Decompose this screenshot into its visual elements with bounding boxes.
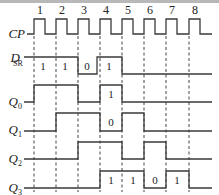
pulse-number-6: 6: [147, 3, 153, 17]
signal-label-q3-subscript: 3: [18, 188, 22, 195]
q3-value-5: 1: [130, 174, 136, 186]
pulse-number-2: 2: [59, 3, 65, 17]
q3-value-6: 0: [152, 174, 158, 186]
pulse-numbers: 1 2 3 4 5 6 7 8: [37, 3, 198, 17]
signal-dsr: D SR 1 1 0 1: [10, 50, 212, 74]
signal-label-q2-subscript: 2: [18, 159, 22, 168]
cp-waveform: [27, 19, 212, 34]
pulse-number-5: 5: [125, 3, 131, 17]
signal-label-q1-subscript: 1: [18, 130, 22, 139]
q1-waveform: [24, 113, 212, 131]
pulse-number-4: 4: [103, 3, 109, 17]
q3-waveform: [24, 171, 212, 188]
q2-waveform: [24, 142, 212, 159]
signal-label-dsr-subscript: SR: [13, 59, 23, 68]
pulse-number-1: 1: [37, 3, 43, 17]
dsr-value-4: 1: [106, 60, 112, 72]
q1-value-4: 0: [108, 116, 114, 128]
dsr-value-1: 1: [40, 60, 46, 72]
pulse-number-8: 8: [192, 3, 198, 17]
pulse-number-7: 7: [169, 3, 175, 17]
signal-cp: CP: [8, 19, 212, 41]
dsr-value-2: 1: [62, 60, 68, 72]
q0-value-4: 1: [108, 88, 114, 100]
dsr-value-3: 0: [84, 60, 90, 72]
q3-value-4: 1: [108, 174, 114, 186]
signal-q1: Q 1 0: [9, 113, 212, 139]
pulse-number-3: 3: [81, 3, 87, 17]
q0-waveform: [24, 85, 212, 102]
dsr-waveform: [24, 57, 212, 74]
timing-diagram: 1 2 3 4 5 6 7 8 CP D SR 1 1 0 1 Q 0 1 Q …: [0, 0, 219, 195]
signal-q2: Q 2: [9, 142, 212, 168]
signal-q0: Q 0 1: [9, 85, 212, 111]
q3-value-7: 1: [174, 174, 180, 186]
signal-q3: Q 3 1 1 0 1: [9, 171, 212, 195]
signal-label-q0-subscript: 0: [18, 102, 22, 111]
signal-label-cp: CP: [8, 26, 25, 41]
